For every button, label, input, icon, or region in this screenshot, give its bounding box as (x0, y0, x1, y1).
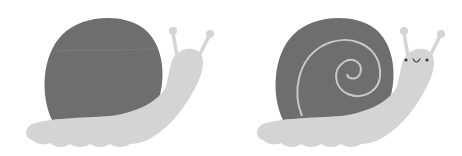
shell (45, 18, 163, 120)
shell (276, 18, 394, 120)
snail-plain (26, 18, 214, 147)
right-eye (425, 58, 428, 61)
snail-smiling (257, 18, 445, 147)
snail-illustration (0, 0, 462, 156)
left-eye (404, 58, 407, 61)
